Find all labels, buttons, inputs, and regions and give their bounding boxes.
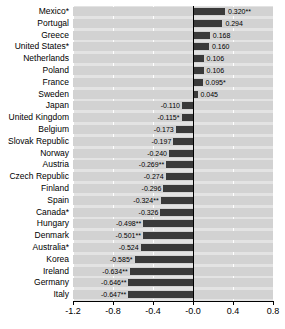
bar [135, 256, 194, 263]
x-tick-label: 0.8 [253, 305, 285, 317]
category-label: Korea [0, 254, 69, 266]
value-label: -0.240 [147, 148, 167, 160]
category-label: United States* [0, 41, 69, 53]
category-label: Slovak Republic [0, 136, 69, 148]
category-label: Australia* [0, 242, 69, 254]
value-label: -0.296 [142, 183, 162, 195]
value-label: -0.646** [101, 277, 126, 289]
bar [141, 244, 193, 251]
row-band [73, 42, 273, 51]
bar [193, 20, 222, 27]
category-label: Sweden [0, 89, 69, 101]
x-tick-label: -0.4 [133, 305, 173, 317]
category-label: Portugal [0, 18, 69, 30]
category-label: Austria [0, 159, 69, 171]
value-label: -0.173 [154, 124, 174, 136]
value-label: -0.197 [151, 136, 171, 148]
bar [193, 43, 209, 50]
bar [193, 55, 204, 62]
category-label: Hungary [0, 218, 69, 230]
value-label: -0.326 [139, 207, 159, 219]
category-label: Finland [0, 183, 69, 195]
chart-row: Japan-0.110 [0, 100, 285, 112]
bar [128, 279, 193, 286]
chart-row: Hungary-0.498** [0, 218, 285, 230]
bar-chart: Mexico*0.320**Portugal0.294Greece0.168Un… [0, 0, 285, 329]
chart-row: Spain-0.324** [0, 195, 285, 207]
x-tick-label: -0.0 [173, 305, 213, 317]
category-label: Netherlands [0, 53, 69, 65]
category-label: United Kingdom [0, 112, 69, 124]
row-band [73, 78, 273, 87]
x-tick-label: 0.4 [213, 305, 253, 317]
chart-row: United Kingdom-0.115* [0, 112, 285, 124]
chart-row: Austria-0.269** [0, 159, 285, 171]
value-label: -0.324** [133, 195, 158, 207]
row-band [73, 19, 273, 28]
bar [193, 67, 204, 74]
category-label: Czech Republic [0, 171, 69, 183]
value-label: -0.524 [119, 242, 139, 254]
value-label: 0.168 [213, 30, 231, 42]
bar [130, 268, 193, 275]
category-label: Greece [0, 30, 69, 42]
bar [163, 185, 193, 192]
chart-row: Germany-0.646** [0, 277, 285, 289]
chart-row: Greece0.168 [0, 30, 285, 42]
value-label: -0.274 [144, 171, 164, 183]
chart-row: Mexico*0.320** [0, 6, 285, 18]
bar [166, 173, 193, 180]
bar [166, 161, 193, 168]
chart-row: Slovak Republic-0.197 [0, 136, 285, 148]
chart-row: Sweden0.045 [0, 89, 285, 101]
value-label: -0.585* [110, 254, 133, 266]
chart-row: Australia*-0.524 [0, 242, 285, 254]
category-label: Norway [0, 148, 69, 160]
chart-row: Portugal0.294 [0, 18, 285, 30]
category-label: Japan [0, 100, 69, 112]
bar [161, 197, 193, 204]
x-tick-label: -1.2 [53, 305, 93, 317]
category-label: France [0, 77, 69, 89]
value-label: 0.045 [201, 89, 219, 101]
x-axis-line [73, 301, 273, 302]
value-label: -0.269** [139, 159, 164, 171]
bar [169, 150, 193, 157]
category-label: Poland [0, 65, 69, 77]
bar [193, 32, 210, 39]
chart-row: Denmark-0.501** [0, 230, 285, 242]
bar [193, 79, 203, 86]
chart-row: Korea-0.585* [0, 254, 285, 266]
category-label: Ireland [0, 266, 69, 278]
chart-row: United States*0.160 [0, 41, 285, 53]
category-label: Italy [0, 289, 69, 301]
category-label: Spain [0, 195, 69, 207]
value-label: 0.095* [206, 77, 226, 89]
category-label: Germany [0, 277, 69, 289]
chart-row: France0.095* [0, 77, 285, 89]
value-label: 0.294 [225, 18, 243, 30]
category-label: Belgium [0, 124, 69, 136]
category-label: Canada* [0, 207, 69, 219]
chart-row: Czech Republic-0.274 [0, 171, 285, 183]
chart-row: Finland-0.296 [0, 183, 285, 195]
value-label: -0.634** [102, 266, 127, 278]
bar [182, 114, 194, 121]
value-label: 0.320** [228, 6, 251, 18]
chart-row: Norway-0.240 [0, 148, 285, 160]
chart-row: Ireland-0.634** [0, 266, 285, 278]
chart-row: Netherlands0.106 [0, 53, 285, 65]
value-label: -0.501** [116, 230, 141, 242]
chart-row: Italy-0.647** [0, 289, 285, 301]
bar [182, 102, 193, 109]
value-label: -0.498** [116, 218, 141, 230]
value-label: 0.106 [207, 53, 225, 65]
bar [176, 126, 193, 133]
row-band [73, 31, 273, 40]
chart-row: Poland0.106 [0, 65, 285, 77]
x-tick-label: -0.8 [93, 305, 133, 317]
bar [143, 232, 193, 239]
category-label: Denmark [0, 230, 69, 242]
value-label: -0.110 [161, 100, 180, 112]
bar [143, 220, 193, 227]
